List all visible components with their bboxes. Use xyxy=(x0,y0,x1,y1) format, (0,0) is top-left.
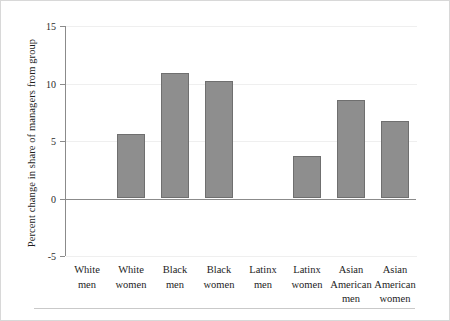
chart-figure: Percent change in share of managers from… xyxy=(0,0,450,321)
bar xyxy=(205,81,232,198)
x-axis-label: AsianAmericanwomen xyxy=(373,263,417,307)
x-axis-label-line: American xyxy=(373,278,417,293)
x-axis-label-line: men xyxy=(65,278,109,293)
x-axis-label-line: men xyxy=(241,278,285,293)
x-axis-label-line: White xyxy=(109,263,153,278)
bar xyxy=(293,156,320,199)
bottom-rule xyxy=(34,308,415,309)
bar xyxy=(161,73,188,198)
x-axis-label-line: White xyxy=(65,263,109,278)
x-axis-label-line: Latinx xyxy=(241,263,285,278)
x-axis-label: Blackwomen xyxy=(197,263,241,292)
x-axis-label-line: American xyxy=(329,278,373,293)
y-tick-label-15: 15 xyxy=(46,21,56,32)
y-axis-title: Percent change in share of managers from… xyxy=(23,13,41,273)
y-tick-label-minus5: -5 xyxy=(48,251,56,262)
gridline-15 xyxy=(66,26,417,27)
y-tick-mark-15 xyxy=(60,26,65,27)
x-axis-label-line: Asian xyxy=(329,263,373,278)
bar xyxy=(381,121,408,198)
bar xyxy=(117,134,144,198)
x-axis-label-line: Black xyxy=(197,263,241,278)
y-tick-label-10: 10 xyxy=(46,78,56,89)
x-axis-label: Latinxwomen xyxy=(285,263,329,292)
x-axis-labels: WhitemenWhitewomenBlackmenBlackwomenLati… xyxy=(65,263,417,307)
plot-area: 15 10 5 0 -5 xyxy=(65,26,417,256)
zero-baseline xyxy=(65,199,416,200)
x-axis-label: AsianAmericanmen xyxy=(329,263,373,307)
x-axis-label-line: Black xyxy=(153,263,197,278)
x-axis-label-line: men xyxy=(329,292,373,307)
y-tick-mark-5 xyxy=(60,141,65,142)
x-axis-label: Blackmen xyxy=(153,263,197,292)
x-axis-label-line: Asian xyxy=(373,263,417,278)
y-tick-mark-minus5 xyxy=(60,256,65,257)
gridline-minus5 xyxy=(66,256,417,257)
bar xyxy=(337,100,364,199)
x-axis-label: Latinxmen xyxy=(241,263,285,292)
x-axis-label-line: men xyxy=(153,278,197,293)
y-tick-mark-10 xyxy=(60,84,65,85)
x-axis-label: Whitemen xyxy=(65,263,109,292)
x-axis-label: Whitewomen xyxy=(109,263,153,292)
y-tick-label-5: 5 xyxy=(51,136,56,147)
x-axis-label-line: women xyxy=(285,278,329,293)
gridline-10 xyxy=(66,84,417,85)
x-axis-label-line: women xyxy=(109,278,153,293)
y-tick-label-0: 0 xyxy=(51,193,56,204)
x-axis-label-line: Latinx xyxy=(285,263,329,278)
x-axis-label-line: women xyxy=(197,278,241,293)
x-axis-label-line: women xyxy=(373,292,417,307)
